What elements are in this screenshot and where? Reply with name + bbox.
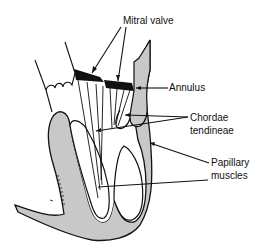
label-annulus: Annulus xyxy=(169,82,205,94)
atrial-wall xyxy=(35,42,75,112)
label-mitral-valve: Mitral valve xyxy=(123,15,174,27)
annulus-tissue xyxy=(130,40,150,127)
label-chordae-line2: tendineae xyxy=(190,125,234,137)
heart-illustration xyxy=(0,0,263,248)
mitral-valve-leaflets xyxy=(74,69,134,91)
label-chordae-line1: Chordae xyxy=(190,112,228,124)
label-papillary-line1: Papillary xyxy=(211,157,249,169)
papillary-muscle-outline xyxy=(114,146,143,220)
mitral-valve-diagram: Mitral valve Annulus Chordae tendineae P… xyxy=(0,0,263,248)
label-papillary-line2: muscles xyxy=(211,170,248,182)
